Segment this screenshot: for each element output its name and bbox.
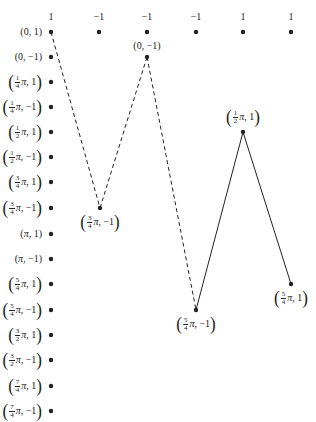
node-label: (34π, −1) bbox=[80, 213, 120, 231]
fraction: 54 bbox=[9, 303, 15, 318]
left-column-dot bbox=[49, 257, 53, 261]
row-label: (14π, 1) bbox=[8, 73, 42, 91]
left-column-dot bbox=[49, 409, 53, 413]
left-column-dot bbox=[49, 206, 53, 210]
path-node-dot bbox=[289, 282, 293, 286]
row-label: (34π, 1) bbox=[8, 173, 42, 191]
fraction: 74 bbox=[15, 379, 21, 394]
fraction: 74 bbox=[9, 404, 15, 419]
node-label: (54π, 1) bbox=[274, 289, 308, 307]
fraction: 14 bbox=[15, 75, 21, 90]
left-column-dot bbox=[49, 333, 53, 337]
top-row-dot bbox=[241, 30, 245, 34]
fraction: 34 bbox=[15, 175, 21, 190]
left-column-dot bbox=[49, 232, 53, 236]
row-label: (π, −1) bbox=[15, 254, 42, 264]
row-label: (54π, 1) bbox=[8, 275, 42, 293]
top-row-value: −1 bbox=[142, 12, 153, 22]
dashed-segment bbox=[147, 57, 196, 310]
row-label: (32π, −1) bbox=[3, 351, 43, 369]
dashed-segment bbox=[100, 57, 147, 208]
node-label: (0, −1) bbox=[133, 41, 160, 51]
top-row-dot bbox=[194, 30, 198, 34]
row-label: (74π, −1) bbox=[3, 402, 43, 420]
fraction: 12 bbox=[15, 125, 21, 140]
left-column-dot bbox=[49, 155, 53, 159]
left-column-dot bbox=[49, 384, 53, 388]
top-row-value: −1 bbox=[191, 12, 202, 22]
left-column-dot bbox=[49, 130, 53, 134]
top-row-dot bbox=[145, 30, 149, 34]
top-row-value: 1 bbox=[241, 12, 246, 22]
solid-segment bbox=[196, 132, 243, 310]
fraction: 54 bbox=[281, 291, 287, 306]
fraction: 34 bbox=[9, 201, 15, 216]
left-column-dot bbox=[49, 180, 53, 184]
left-column-dot bbox=[49, 80, 53, 84]
top-row-dot bbox=[289, 30, 293, 34]
row-label: (0, −1) bbox=[15, 52, 42, 62]
row-label: (0, 1) bbox=[20, 27, 42, 37]
top-row-dot bbox=[49, 30, 53, 34]
fraction: 54 bbox=[183, 317, 189, 332]
row-label: (54π, −1) bbox=[3, 301, 43, 319]
top-row-value: 1 bbox=[289, 12, 294, 22]
left-column-dot bbox=[49, 105, 53, 109]
fraction: 12 bbox=[9, 150, 15, 165]
fraction: 32 bbox=[15, 328, 21, 343]
left-column-dot bbox=[49, 282, 53, 286]
fraction: 12 bbox=[233, 110, 239, 125]
node-label: (54π, −1) bbox=[176, 315, 216, 333]
fraction: 32 bbox=[9, 353, 15, 368]
path-node-dot bbox=[145, 55, 149, 59]
fraction: 54 bbox=[15, 277, 21, 292]
left-column-dot bbox=[49, 55, 53, 59]
left-column-dot bbox=[49, 358, 53, 362]
row-label: (12π, 1) bbox=[8, 123, 42, 141]
path-segments bbox=[51, 32, 291, 310]
path-node-dot bbox=[194, 308, 198, 312]
left-column-dot bbox=[49, 308, 53, 312]
top-row-value: −1 bbox=[94, 12, 105, 22]
row-label: (π, 1) bbox=[20, 229, 42, 239]
fraction: 14 bbox=[9, 100, 15, 115]
dashed-segment bbox=[51, 32, 100, 208]
fraction: 34 bbox=[87, 215, 93, 230]
row-label: (74π, 1) bbox=[8, 377, 42, 395]
row-label: (12π, −1) bbox=[3, 148, 43, 166]
row-label: (32π, 1) bbox=[8, 326, 42, 344]
top-row-dot bbox=[97, 30, 101, 34]
path-diagram bbox=[0, 0, 316, 422]
node-label: (12π, 1) bbox=[226, 108, 260, 126]
top-row-value: 1 bbox=[49, 12, 54, 22]
solid-segment bbox=[243, 132, 291, 284]
path-node-dot bbox=[98, 206, 102, 210]
path-node-dot bbox=[241, 130, 245, 134]
row-label: (34π, −1) bbox=[3, 199, 43, 217]
row-label: (14π, −1) bbox=[3, 98, 43, 116]
